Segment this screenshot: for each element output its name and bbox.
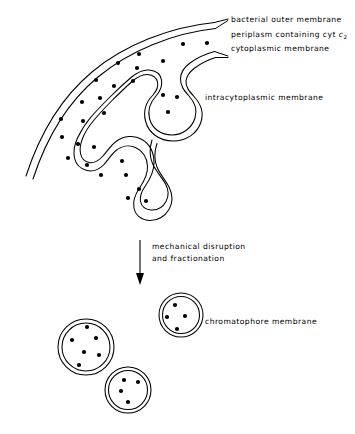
- cytochrome-c2-dot: [144, 199, 148, 203]
- cytochrome-c2-dot: [85, 163, 89, 167]
- arrow-caption-line-1: mechanical disruption: [152, 242, 246, 251]
- cyt-c-subscript: 2: [343, 33, 347, 39]
- arrow-caption-line-2: and fractionation: [152, 254, 225, 263]
- label-chromatophore-membrane: chromatophore membrane: [205, 317, 317, 326]
- cytochrome-c2-dot: [81, 119, 85, 123]
- cytochrome-c2-dot: [112, 84, 116, 88]
- cytoplasmic-membrane: [74, 52, 216, 221]
- cytochrome-c2-dot: [135, 66, 139, 70]
- cytochrome-c2-dot: [175, 95, 179, 99]
- periplasm-text: periplasm containing cyt: [231, 30, 339, 39]
- cytochrome-c2-dot: [97, 353, 101, 357]
- cytochrome-c2-dot: [161, 93, 165, 97]
- cytochrome-c2-dot: [137, 52, 141, 56]
- label-periplasm-cyt-c2: periplasm containing cyt c2: [231, 30, 347, 40]
- cytochrome-c2-dot: [175, 327, 179, 331]
- chromatophore-vesicles: [58, 293, 203, 413]
- vesicle-outer-circle: [105, 367, 151, 413]
- cytochrome-c2-dot: [173, 303, 177, 307]
- cytochrome-c2-dot: [126, 196, 130, 200]
- cytochrome-c2-dot: [92, 145, 96, 149]
- cytochrome-c2-dot: [94, 78, 98, 82]
- cytochrome-c2-dot: [119, 389, 123, 393]
- cytochrome-c2-dot: [165, 315, 169, 319]
- arrow-head-icon: [136, 273, 144, 285]
- membrane-diagram: bacterial outer membrane periplasm conta…: [0, 0, 355, 434]
- cytochrome-c2-dot: [126, 400, 130, 404]
- diagram-canvas: bacterial outer membrane periplasm conta…: [0, 0, 355, 434]
- cytochrome-c2-dot: [181, 42, 185, 46]
- chromatophore-vesicle: [159, 293, 203, 337]
- chromatophore-vesicle: [105, 367, 151, 413]
- vesicle-inner-circle: [62, 323, 110, 371]
- cytochrome-c2-dot: [183, 314, 187, 318]
- cytochrome-c2-dot: [59, 117, 63, 121]
- label-cytoplasmic-membrane: cytoplasmic membrane: [231, 44, 329, 53]
- cytochrome-c2-dot: [120, 159, 124, 163]
- cytochrome-c2-dot: [77, 363, 81, 367]
- cytochrome-c2-dot: [131, 79, 135, 83]
- bacterial-outer-membrane: [26, 23, 216, 180]
- cytochrome-c2-dot: [136, 380, 140, 384]
- cytochrome-c2-dot: [94, 336, 98, 340]
- cytochrome-c2-dot: [80, 100, 84, 104]
- cytochrome-c2-dot: [116, 61, 120, 65]
- cytochrome-c2-dot: [82, 350, 86, 354]
- vesicle-inner-circle: [163, 297, 200, 334]
- vesicle-outer-circle: [159, 293, 203, 337]
- cytochrome-c2-dot: [166, 110, 170, 114]
- cytochrome-c2-dot: [124, 173, 128, 177]
- cytochrome-c2-dot: [205, 41, 209, 45]
- cytochrome-c2-dot: [85, 325, 89, 329]
- label-intracytoplasmic-membrane: intracytoplasmic membrane: [205, 93, 323, 102]
- process-arrow: [136, 240, 144, 285]
- cytochrome-c2-dot: [60, 135, 64, 139]
- chromatophore-vesicle: [58, 319, 114, 375]
- cytochrome-c2-dot: [122, 378, 126, 382]
- label-leader-lines: [215, 19, 229, 58]
- cytochrome-c2-dot: [98, 96, 102, 100]
- cytochrome-c2-dot: [76, 142, 80, 146]
- cytochrome-c2-dot: [161, 59, 165, 63]
- cytochrome-c2-dot: [99, 173, 103, 177]
- cytochrome-c2-dot: [70, 338, 74, 342]
- label-bacterial-outer-membrane: bacterial outer membrane: [231, 15, 342, 24]
- cytochrome-c2-dot: [66, 156, 70, 160]
- cytochrome-c2-dot: [137, 187, 141, 191]
- cytochrome-c2-dot: [102, 111, 106, 115]
